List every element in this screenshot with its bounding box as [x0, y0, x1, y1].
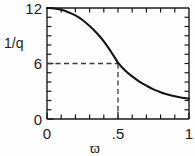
guide-lines [47, 64, 118, 120]
y-tick-label-bottom: 0 [34, 111, 42, 128]
x-tick-label-left: 0 [43, 125, 51, 142]
x-axis-title: ϖ [90, 140, 100, 156]
figure-container: 12 6 0 0 .5 1 1/q ϖ [0, 0, 195, 156]
y-tick-label-top: 12 [25, 0, 42, 17]
x-tick-label-right: 1 [185, 125, 193, 142]
y-tick-label-mid: 6 [34, 55, 42, 72]
y-axis-title: 1/q [4, 35, 23, 51]
chart-plot: 12 6 0 0 .5 1 1/q ϖ [0, 0, 195, 156]
x-tick-label-mid: .5 [112, 125, 125, 142]
